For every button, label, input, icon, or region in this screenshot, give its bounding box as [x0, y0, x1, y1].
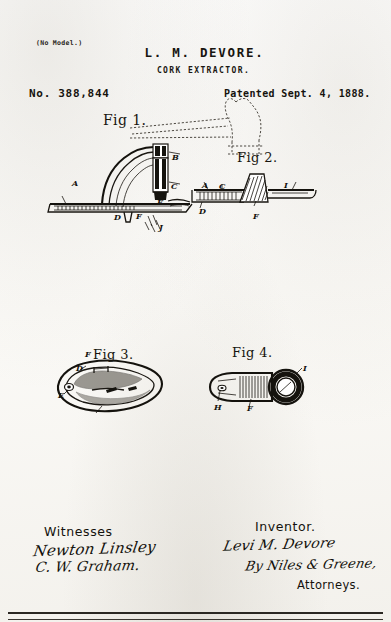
fig2-ref-letter-d: D	[199, 206, 206, 216]
fig1-ref-letter-f: F	[136, 211, 142, 221]
fig2-ref-letter-a: A	[202, 180, 208, 190]
fig1-ref-letter-d: D	[114, 212, 121, 222]
witness-signature-2: C. W. Graham.	[35, 557, 142, 575]
fig4-ref-letter-f: F	[247, 403, 253, 413]
fig1-ref-letter-e: E	[157, 197, 163, 207]
figure-3-caption: Fig 3.	[93, 347, 133, 362]
fig2-ref-letter-i: I	[284, 180, 288, 190]
witnesses-heading: Witnesses	[44, 524, 113, 539]
figure-3-drawing	[50, 356, 170, 416]
bottom-rule	[8, 612, 383, 614]
fig1-ref-letter-b: B	[172, 152, 179, 162]
fig1-ref-letter-c: C	[171, 181, 177, 191]
figure-1-caption: Fig 1.	[103, 112, 146, 128]
fig3-ref-letter-e: E	[58, 390, 64, 400]
attorneys-label: Attorneys.	[297, 578, 360, 592]
bottom-rule-secondary	[8, 619, 383, 620]
patent-subject-title: CORK EXTRACTOR.	[0, 66, 391, 75]
fig2-ref-letter-c: C	[219, 181, 225, 191]
fig1-ref-letter-j: J	[159, 222, 163, 232]
inventor-heading: Inventor.	[255, 519, 316, 534]
fig3-ref-letter-d: D	[76, 363, 83, 373]
fig2-ref-letter-f: F	[253, 211, 259, 221]
inventor-signature: Levi M. Devore	[222, 534, 337, 553]
figure-2-caption: Fig 2.	[237, 150, 277, 165]
fig4-ref-letter-h: H	[214, 402, 222, 412]
fig1-ref-letter-a: A	[72, 178, 78, 188]
fig3-ref-letter-f: F	[85, 349, 91, 359]
fig4-ref-letter-i: I	[303, 363, 307, 373]
patent-sheet: (No Model.) L. M. DEVORE. CORK EXTRACTOR…	[0, 0, 391, 622]
figure-4-caption: Fig 4.	[232, 345, 272, 360]
attorney-signature: By Niles & Greene,	[244, 555, 379, 573]
inventor-name-header: L. M. DEVORE.	[0, 45, 391, 60]
